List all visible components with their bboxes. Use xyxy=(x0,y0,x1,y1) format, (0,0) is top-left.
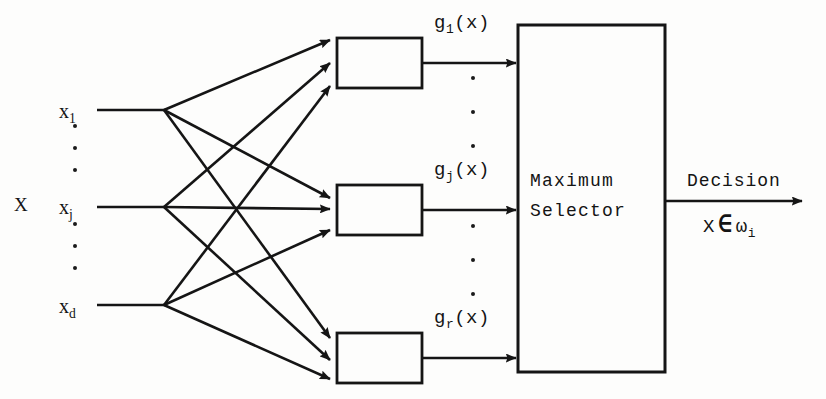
edge-xd-to-gj xyxy=(164,230,330,305)
edge-x1-to-g1 xyxy=(164,40,330,110)
edge-xj-to-gr xyxy=(164,207,330,360)
diagram-canvas xyxy=(0,0,826,399)
input-ellipsis-upper xyxy=(73,124,77,172)
discriminant-label-gj: gj(x) xyxy=(434,161,490,180)
decision-membership: X∈ωi xyxy=(703,214,756,238)
input-label-xd: xd xyxy=(59,296,76,316)
discriminant-label-g1: g1(x) xyxy=(434,14,490,33)
decision-label: Decision xyxy=(687,172,781,190)
discriminant-box-g1 xyxy=(337,38,422,88)
input-ellipsis-lower xyxy=(73,222,77,270)
classifier-block-diagram: X x1 xj xd g1(x) gj(x) gr(x) Maximum Sel… xyxy=(0,0,826,399)
discriminant-label-gr: gr(x) xyxy=(434,309,490,328)
input-label-x1: x1 xyxy=(59,101,76,121)
input-vector-label: X xyxy=(14,195,28,214)
selector-label-line2: Selector xyxy=(530,202,626,220)
maximum-selector-box xyxy=(518,25,665,372)
discriminant-box-gr xyxy=(337,333,422,383)
edge-xj-to-gj xyxy=(164,207,330,209)
discriminant-box-gj xyxy=(337,185,422,235)
discriminant-ellipsis-upper xyxy=(471,76,475,148)
edge-xd-to-g1 xyxy=(164,86,330,305)
input-label-xj: xj xyxy=(59,197,73,217)
discriminant-ellipsis-lower xyxy=(471,224,475,296)
edge-xd-to-gr xyxy=(164,305,330,379)
selector-label-line1: Maximum xyxy=(530,172,614,190)
edge-x1-to-gr xyxy=(164,110,330,338)
